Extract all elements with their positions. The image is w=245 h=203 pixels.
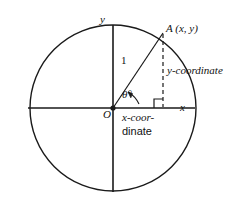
- x-axis-label: x: [180, 101, 185, 113]
- point-a-label: A (x, y): [166, 22, 198, 34]
- radius-length-label: 1: [121, 54, 127, 66]
- diagram-canvas: [0, 0, 245, 203]
- origin-label: O: [103, 108, 111, 120]
- x-coordinate-label-line1: x-coor-: [122, 111, 154, 123]
- theta-angle-label: θ°: [122, 88, 132, 100]
- unit-circle-diagram: A (x, y) y x O 1 θ° y-coordinate x-coor-…: [0, 0, 245, 203]
- y-axis-label: y: [100, 13, 105, 25]
- x-coordinate-label-line2: dinate: [122, 125, 154, 139]
- radius-segment-line: [113, 33, 163, 108]
- y-coordinate-label: y-coordinate: [167, 64, 223, 76]
- right-angle-marker: [154, 99, 163, 108]
- origin-point-dot: [110, 105, 115, 110]
- x-coordinate-label: x-coor-dinate: [122, 111, 154, 139]
